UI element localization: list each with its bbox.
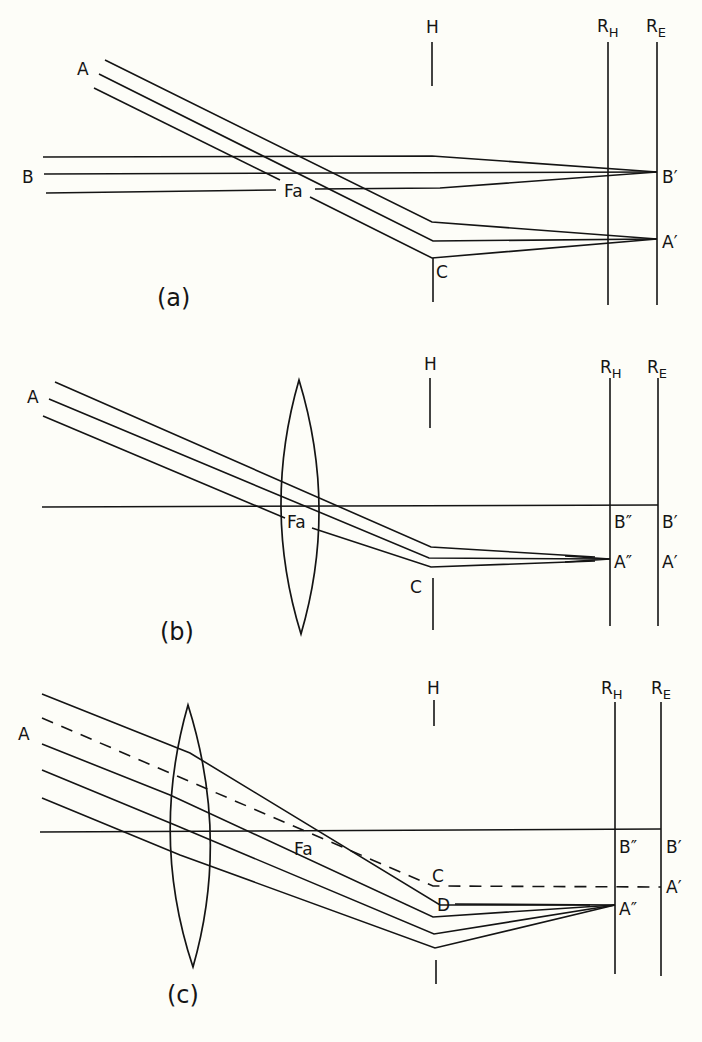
ray-b-top: [43, 156, 657, 172]
label-a: A: [27, 387, 39, 407]
label-a-double-prime: A″: [614, 552, 632, 572]
label-c: C: [436, 262, 448, 282]
optics-figure: A B Fa C H RH RE B′ A′ (a) A Fa C H RH R…: [0, 0, 702, 1042]
ray-a-top: [55, 382, 595, 557]
ray-dashed-chief: [42, 718, 661, 887]
label-a-prime: A′: [662, 232, 678, 252]
label-a-prime: A′: [666, 877, 682, 897]
label-a: A: [77, 59, 89, 79]
label-a: A: [18, 724, 30, 744]
label-h: H: [427, 678, 440, 698]
panel-a: A B Fa C H RH RE B′ A′ (a): [22, 16, 678, 312]
label-rh: RH: [601, 678, 623, 702]
label-d: D: [437, 895, 450, 915]
optical-axis: [42, 505, 658, 507]
panel-c: A Fa C D H RH RE B″ B′ A″ A′ (c): [18, 678, 682, 1009]
convex-lens: [170, 705, 210, 967]
caption-a: (a): [157, 284, 190, 312]
label-re: RE: [646, 16, 666, 40]
ray-b-bottom-left: [46, 190, 276, 193]
label-c: C: [432, 866, 444, 886]
label-c: C: [410, 577, 422, 597]
ray-a-4: [42, 798, 615, 948]
label-a-double-prime: A″: [619, 899, 637, 919]
label-fa: Fa: [284, 181, 303, 201]
panel-b: A Fa C H RH RE B″ B′ A″ A′ (b): [27, 354, 678, 646]
label-b-prime: B′: [662, 512, 678, 532]
label-b: B: [22, 167, 34, 187]
label-a-prime: A′: [662, 552, 678, 572]
ray-a-1-tail: [455, 904, 615, 905]
label-re: RE: [647, 357, 667, 381]
label-b-prime: B′: [666, 837, 682, 857]
label-fa: Fa: [294, 839, 313, 859]
ray-b-bottom-right: [315, 172, 657, 189]
optical-axis: [40, 829, 661, 832]
label-h: H: [424, 354, 437, 374]
label-b-double-prime: B″: [614, 512, 632, 532]
label-b-double-prime: B″: [619, 837, 637, 857]
label-fa: Fa: [287, 512, 306, 532]
label-re: RE: [651, 678, 671, 702]
label-b-prime: B′: [662, 167, 678, 187]
ray-a-bottom-left: [94, 88, 280, 180]
ray-a-bottom-right: [312, 528, 595, 567]
caption-b: (b): [160, 618, 194, 646]
ray-b-mid: [44, 172, 657, 174]
ray-a-mid: [49, 399, 610, 559]
caption-c: (c): [167, 981, 199, 1009]
label-rh: RH: [597, 16, 619, 40]
ray-a-top: [105, 60, 657, 239]
ray-a-1: [42, 694, 590, 905]
label-h: H: [426, 17, 439, 37]
label-rh: RH: [600, 357, 622, 381]
